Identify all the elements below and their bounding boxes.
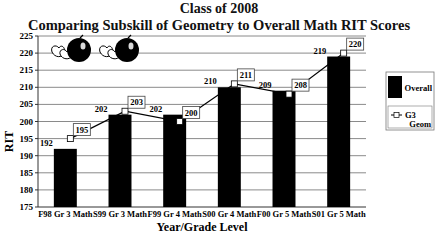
y-tick-label: 190 xyxy=(20,151,34,161)
x-axis-title: Year/Grade Level xyxy=(157,220,249,234)
line-value-label: 195 xyxy=(75,125,88,135)
bar-overall xyxy=(218,87,241,207)
line-value-label: 208 xyxy=(294,80,307,90)
y-tick-label: 205 xyxy=(20,99,34,109)
line-value-label: 211 xyxy=(240,70,252,80)
apple-icon xyxy=(52,35,91,62)
bar-overall xyxy=(327,57,350,207)
bar-overall xyxy=(109,115,132,207)
line-value-label: 203 xyxy=(130,97,143,107)
x-category-label: F98 Gr 3 Math xyxy=(38,209,93,219)
line-value-label: 220 xyxy=(349,39,362,49)
x-category-label: F00 Gr 5 Math xyxy=(257,209,312,219)
bar-value-label: 202 xyxy=(95,104,108,114)
legend-marker-icon xyxy=(394,113,399,118)
y-tick-label: 175 xyxy=(20,202,34,212)
x-category-label: F99 Gr 4 Math xyxy=(147,209,202,219)
marker-square-icon xyxy=(67,136,73,142)
y-tick-label: 185 xyxy=(20,168,34,178)
marker-square-icon xyxy=(341,50,347,56)
bar-value-label: 210 xyxy=(204,76,217,86)
x-category-label: S99 Gr 3 Math xyxy=(93,209,147,219)
y-tick-label: 225 xyxy=(20,31,34,41)
chart-plot: 1751801851901952002052102152202251922022… xyxy=(0,0,438,234)
apple-icon xyxy=(100,35,139,62)
y-tick-label: 195 xyxy=(20,134,34,144)
legend-label-geom-2: Geom xyxy=(409,119,431,129)
line-value-label: 200 xyxy=(185,108,198,118)
legend-label-overall: Overall xyxy=(405,83,433,93)
y-tick-label: 215 xyxy=(20,65,34,75)
marker-square-icon xyxy=(177,119,183,125)
bar-overall xyxy=(273,91,296,207)
bar-value-label: 202 xyxy=(149,104,162,114)
bar-overall xyxy=(54,149,77,207)
x-category-label: S00 Gr 4 Math xyxy=(202,209,256,219)
marker-square-icon xyxy=(231,81,237,87)
y-axis-title: RIT xyxy=(2,131,16,152)
y-tick-label: 200 xyxy=(20,117,34,127)
y-tick-label: 210 xyxy=(20,82,34,92)
marker-square-icon xyxy=(286,91,292,97)
bar-value-label: 192 xyxy=(40,138,53,148)
bar-value-label: 219 xyxy=(313,46,326,56)
bar-overall xyxy=(163,115,186,207)
legend-swatch-overall xyxy=(388,76,402,98)
x-category-label: S01 Gr 5 Math xyxy=(312,209,366,219)
legend: OverallG3Geom xyxy=(386,72,434,130)
y-tick-label: 180 xyxy=(20,185,34,195)
y-tick-label: 220 xyxy=(20,48,34,58)
marker-square-icon xyxy=(122,108,128,114)
